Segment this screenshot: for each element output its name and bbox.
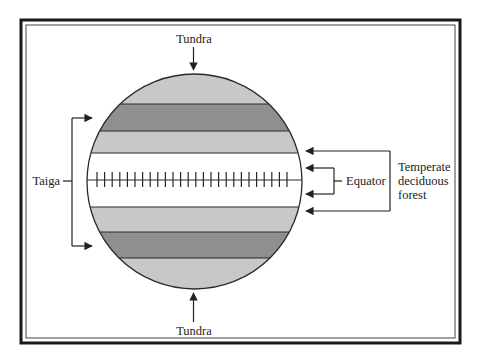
band-tundra-north (80, 70, 310, 104)
diagram-canvas: Tundra Tundra Taiga Temperate deciduous … (0, 0, 478, 359)
globe (80, 70, 310, 293)
label-temperate-line1: Temperate (398, 160, 451, 174)
band-temperate-south (80, 207, 310, 232)
label-taiga: Taiga (32, 174, 60, 188)
label-temperate-line2: deciduous (398, 174, 449, 188)
label-tundra-bottom: Tundra (176, 324, 212, 338)
label-tundra-top: Tundra (176, 32, 212, 46)
label-temperate-line3: forest (398, 188, 427, 202)
band-tundra-south (80, 258, 310, 293)
equator-bracket (306, 168, 342, 194)
band-taiga-north (80, 104, 310, 131)
band-temperate-north (80, 131, 310, 153)
label-equator: Equator (346, 174, 386, 188)
